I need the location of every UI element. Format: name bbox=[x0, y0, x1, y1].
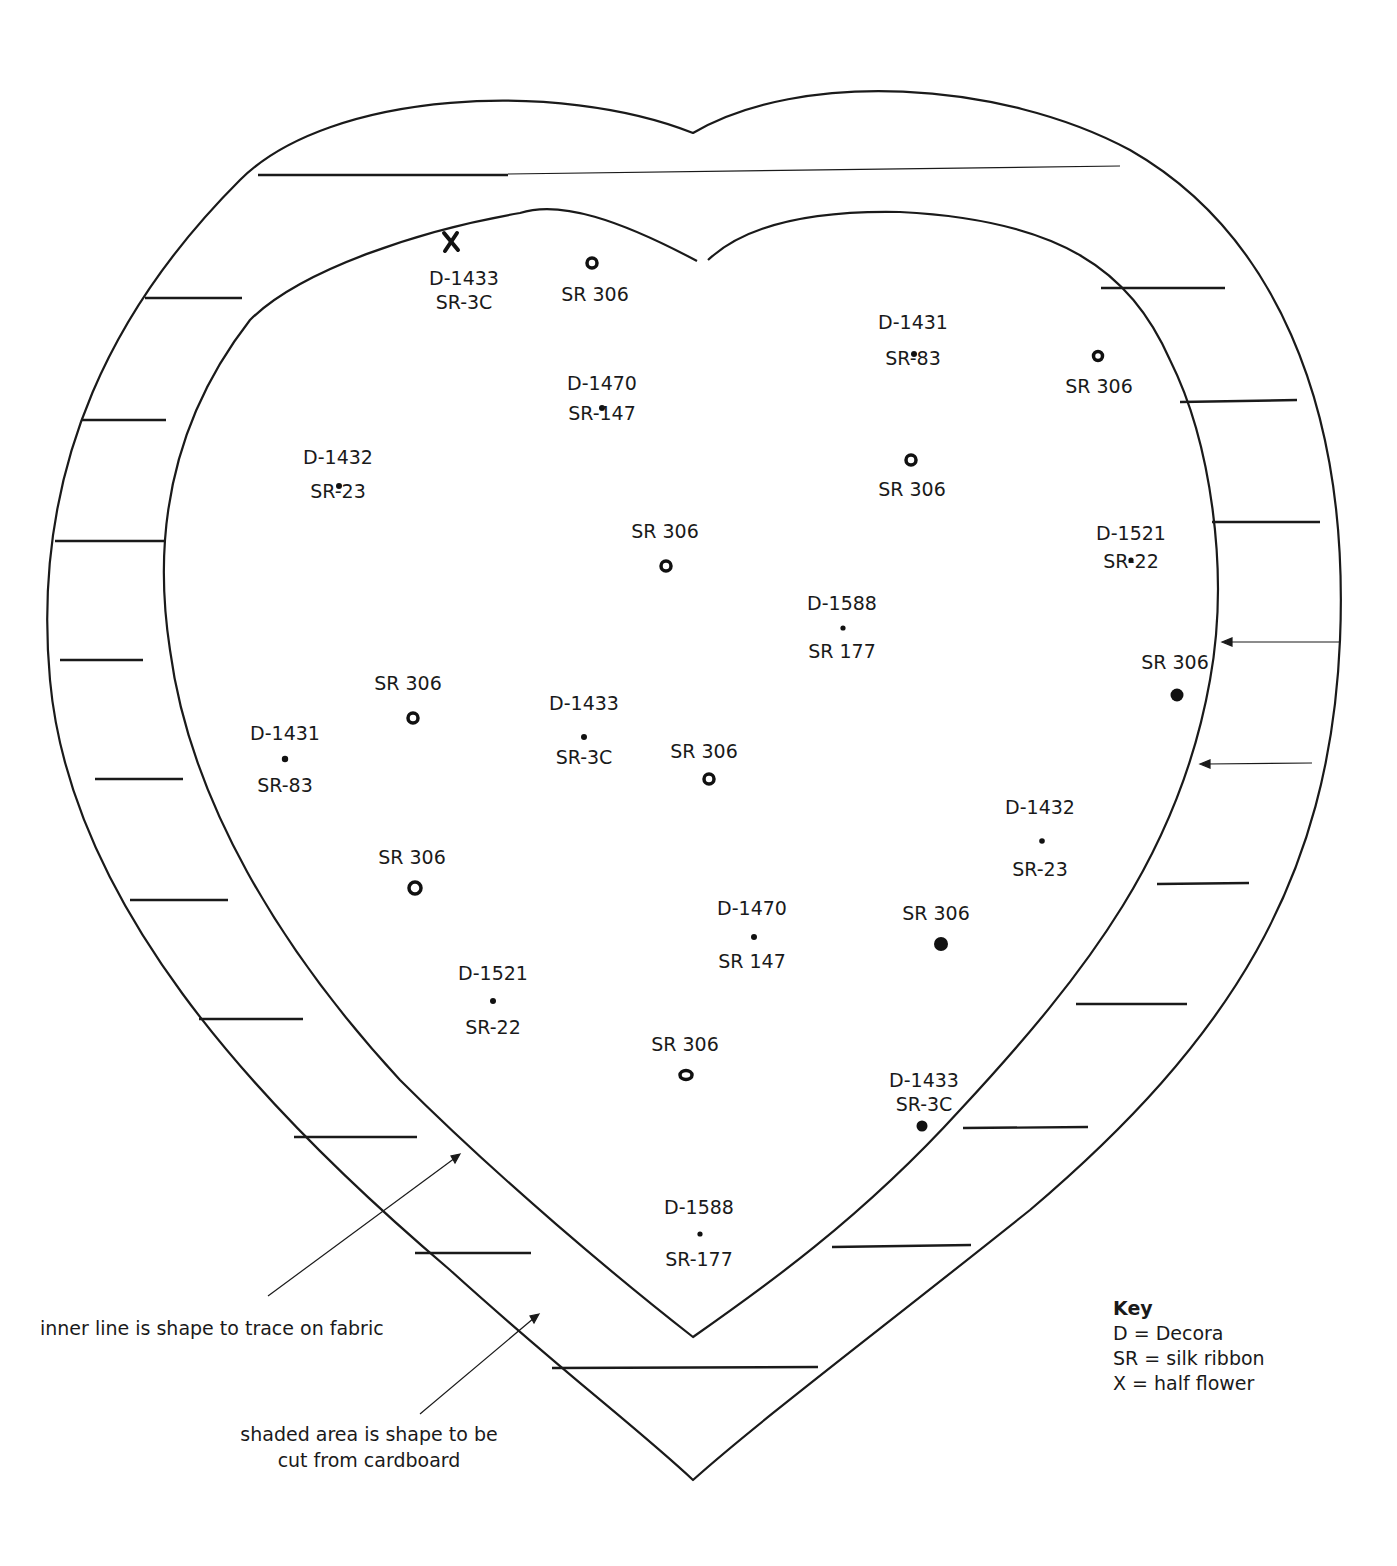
label-d1433-sr3c: D-1433 SR-3C bbox=[549, 691, 619, 769]
label-d1588-sr177: D-1588 SR 177 bbox=[807, 591, 877, 663]
label-sr306: SR 306 bbox=[670, 739, 738, 763]
label-d1431-sr83: D-1431 SR-83 bbox=[878, 310, 948, 370]
label-d1432-sr23: D-1432 SR-23 bbox=[1005, 795, 1075, 881]
key-item-silk-ribbon: SR = silk ribbon bbox=[1113, 1346, 1265, 1371]
label-d1470-sr147: D-1470 SR 147 bbox=[717, 896, 787, 973]
label-sr306: SR 306 bbox=[378, 845, 446, 869]
label-d1432-sr23: D-1432 SR-23 bbox=[303, 445, 373, 503]
label-d1588-sr177-bottom: D-1588 SR-177 bbox=[664, 1195, 734, 1271]
label-d1470-sr147: D-1470 SR-147 bbox=[567, 371, 637, 425]
inner-heart-outline bbox=[164, 209, 1218, 1337]
edge-arrows bbox=[1200, 638, 1340, 768]
label-sr306: SR 306 bbox=[561, 282, 629, 306]
label-d1433-sr3c-bottom: D-1433 SR-3C bbox=[889, 1068, 959, 1116]
legend-key: Key D = Decora SR = silk ribbon X = half… bbox=[1113, 1296, 1265, 1396]
key-title: Key bbox=[1113, 1296, 1265, 1321]
label-d1521-sr22: D-1521 SR-22 bbox=[458, 961, 528, 1039]
key-item-decora: D = Decora bbox=[1113, 1321, 1265, 1346]
note-shaded-area: shaded area is shape to be cut from card… bbox=[240, 1421, 498, 1473]
markers bbox=[282, 233, 1184, 1237]
label-sr306: SR 306 bbox=[1065, 374, 1133, 398]
shading-hatch-lines bbox=[55, 166, 1320, 1368]
label-d1431-sr83: D-1431 SR-83 bbox=[250, 721, 320, 797]
label-sr306: SR 306 bbox=[878, 477, 946, 501]
label-sr306: SR 306 bbox=[374, 671, 442, 695]
label-sr306: SR 306 bbox=[651, 1032, 719, 1056]
label-d1521-sr22: D-1521 SR-22 bbox=[1096, 521, 1166, 573]
leader-arrows bbox=[268, 1154, 539, 1414]
label-sr306: SR 306 bbox=[631, 519, 699, 543]
key-item-half-flower: X = half flower bbox=[1113, 1371, 1265, 1396]
half-flower-x-icon bbox=[444, 233, 458, 251]
note-inner-line: inner line is shape to trace on fabric bbox=[40, 1315, 384, 1341]
label-sr306: SR 306 bbox=[902, 901, 970, 925]
outer-heart-outline bbox=[47, 91, 1341, 1480]
label-d1433-sr3c-top: D-1433 SR-3C bbox=[429, 266, 499, 314]
label-sr306: SR 306 bbox=[1141, 650, 1209, 674]
